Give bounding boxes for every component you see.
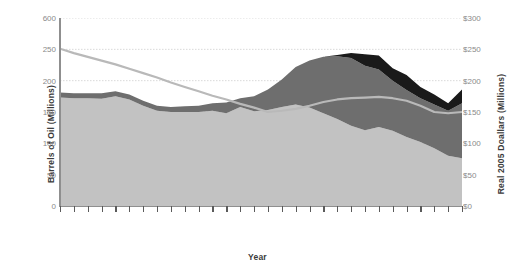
x-tick-mark <box>379 206 380 212</box>
y-axis-line <box>59 18 61 206</box>
y-axis-left-ticks: 600250200150100500 <box>22 0 56 268</box>
x-tick-mark <box>60 206 61 212</box>
axis-tick-label: $100 <box>463 139 481 148</box>
x-tick-mark <box>365 206 366 212</box>
x-tick-mark <box>310 206 311 212</box>
x-axis-title: Year <box>0 252 515 262</box>
x-tick-mark <box>185 206 186 212</box>
plot-area <box>60 18 462 206</box>
axis-tick-label: 50 <box>47 170 56 179</box>
x-tick-mark <box>129 206 130 212</box>
x-tick-mark <box>337 206 338 212</box>
x-tick-mark <box>393 206 394 212</box>
axis-tick-label: 600 <box>43 14 56 23</box>
axis-tick-label: $150 <box>463 108 481 117</box>
axis-tick-label: $300 <box>463 14 481 23</box>
chart-container: Barrels of Oil (Millions) Real 2005 Doal… <box>0 0 515 268</box>
axis-tick-label: 200 <box>43 76 56 85</box>
axis-tick-label: $250 <box>463 45 481 54</box>
x-tick-mark <box>254 206 255 212</box>
x-tick-mark <box>282 206 283 212</box>
x-tick-mark <box>157 206 158 212</box>
x-tick-mark <box>88 206 89 212</box>
x-tick-mark <box>115 206 116 212</box>
x-tick-mark <box>240 206 241 212</box>
area-series-group <box>60 53 462 206</box>
x-tick-mark <box>268 206 269 212</box>
axis-tick-label: 0 <box>52 202 56 211</box>
x-axis-tick-marks <box>60 206 462 213</box>
x-tick-mark <box>434 206 435 212</box>
x-tick-mark <box>226 206 227 212</box>
y-axis-right-title: Real 2005 Doallars (Millions) <box>497 74 507 195</box>
x-tick-mark <box>212 206 213 212</box>
x-tick-mark <box>323 206 324 212</box>
x-tick-mark <box>448 206 449 212</box>
axis-tick-label: $200 <box>463 76 481 85</box>
x-tick-mark <box>296 206 297 212</box>
x-tick-mark <box>462 206 463 212</box>
axis-tick-label: $0 <box>463 202 472 211</box>
x-tick-mark <box>351 206 352 212</box>
x-tick-mark <box>74 206 75 212</box>
axis-tick-label: 100 <box>43 139 56 148</box>
axis-tick-label: $50 <box>463 170 476 179</box>
axis-tick-label: 250 <box>43 45 56 54</box>
x-tick-mark <box>407 206 408 212</box>
chart-svg <box>60 18 462 206</box>
x-tick-mark <box>102 206 103 212</box>
axis-tick-label: 150 <box>43 108 56 117</box>
y-axis-right-ticks: $300$250$200$150$100$50$0 <box>463 0 497 268</box>
x-tick-mark <box>171 206 172 212</box>
x-tick-mark <box>420 206 421 212</box>
x-tick-mark <box>199 206 200 212</box>
x-tick-mark <box>143 206 144 212</box>
